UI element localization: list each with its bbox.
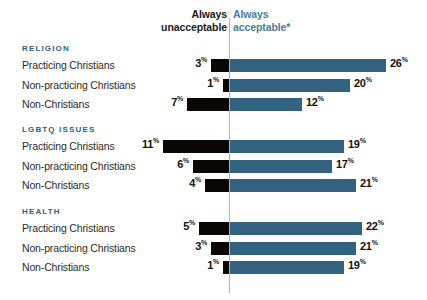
legend-left-line2: unacceptable [97,21,227,34]
diverging-bar-chart: Always unacceptable Always acceptable* R… [0,0,427,300]
row-label: Non-Christians [22,98,89,110]
legend-right-line2: acceptable* [233,21,373,34]
value-label-always-acceptable: 26% [390,57,408,69]
value-label-always-acceptable: 19% [348,259,366,271]
value-label-always-acceptable: 12% [306,96,324,108]
bar-always-acceptable [230,160,332,173]
chart-row: Non-Christians7%12% [0,96,427,114]
bar-always-unacceptable [211,242,229,255]
chart-row: Practicing Christians5%22% [0,220,427,238]
bar-always-acceptable [230,242,356,255]
chart-row: Practicing Christians3%26% [0,57,427,75]
row-label: Practicing Christians [22,59,115,71]
row-label: Non-practicing Christians [22,160,136,172]
group-title: HEALTH [22,207,61,216]
value-label-always-unacceptable: 1% [207,259,219,271]
chart-row: Non-practicing Christians3%21% [0,240,427,258]
chart-group-health: HEALTHPracticing Christians5%22%Non-prac… [0,207,427,279]
chart-legend-header: Always unacceptable Always acceptable* [0,8,427,42]
value-label-always-unacceptable: 6% [177,158,189,170]
value-label-always-unacceptable: 3% [195,57,207,69]
chart-group-religion: RELIGIONPracticing Christians3%26%Non-pr… [0,44,427,116]
bar-always-acceptable [230,98,302,111]
row-label: Practicing Christians [22,222,115,234]
bar-always-unacceptable [223,261,229,274]
value-label-always-acceptable: 17% [336,158,354,170]
bar-always-unacceptable [187,98,229,111]
legend-always-acceptable: Always acceptable* [233,8,373,33]
value-label-always-acceptable: 22% [366,220,384,232]
bar-always-unacceptable [223,79,229,92]
bar-always-acceptable [230,222,362,235]
legend-right-line1: Always [233,8,269,20]
value-label-always-unacceptable: 4% [189,177,201,189]
bar-always-acceptable [230,179,356,192]
bar-always-acceptable [230,140,344,153]
row-label: Non-Christians [22,261,89,273]
chart-row: Non-Christians1%19% [0,259,427,277]
chart-group-lgbtq-issues: LGBTQ ISSUESPracticing Christians11%19%N… [0,125,427,197]
value-label-always-unacceptable: 11% [142,138,159,150]
value-label-always-acceptable: 19% [348,138,366,150]
value-label-always-acceptable: 21% [360,240,378,252]
row-label: Non-Christians [22,179,89,191]
bar-always-acceptable [230,79,350,92]
value-label-always-acceptable: 21% [360,177,378,189]
chart-row: Practicing Christians11%19% [0,138,427,156]
value-label-always-unacceptable: 5% [183,220,195,232]
bar-always-unacceptable [163,140,229,153]
chart-row: Non-practicing Christians6%17% [0,158,427,176]
row-label: Practicing Christians [22,140,115,152]
bar-always-unacceptable [211,59,229,72]
value-label-always-unacceptable: 3% [195,240,207,252]
bar-always-acceptable [230,261,344,274]
bar-always-unacceptable [199,222,229,235]
bar-always-acceptable [230,59,386,72]
value-label-always-unacceptable: 1% [207,77,219,89]
group-title: LGBTQ ISSUES [22,125,95,134]
row-label: Non-practicing Christians [22,242,136,254]
value-label-always-unacceptable: 7% [171,96,183,108]
row-label: Non-practicing Christians [22,79,136,91]
value-label-always-acceptable: 20% [354,77,372,89]
bar-always-unacceptable [205,179,229,192]
chart-row: Non-practicing Christians1%20% [0,77,427,95]
group-title: RELIGION [22,44,70,53]
legend-always-unacceptable: Always unacceptable [97,8,227,33]
legend-left-line1: Always [191,8,227,20]
chart-row: Non-Christians4%21% [0,177,427,195]
bar-always-unacceptable [193,160,229,173]
